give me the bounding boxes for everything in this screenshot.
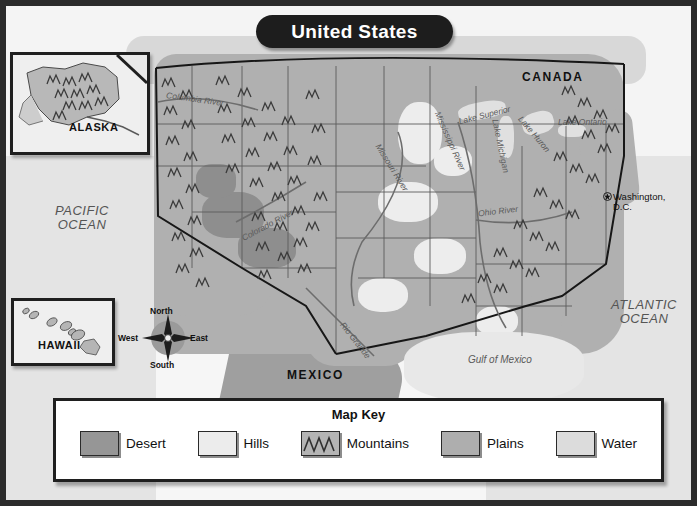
alaska-inset[interactable]: ALASKA [10, 52, 150, 155]
hawaii-shape [14, 301, 112, 363]
country-label-canada: CANADA [522, 70, 584, 84]
compass-rose: North South West East [118, 304, 218, 372]
lake-label-ontario: Lake Ontario [558, 118, 607, 127]
map-key-swatch-mountains [301, 431, 340, 456]
map-key-label-mountains: Mountains [347, 436, 409, 451]
map-key-swatch-water [556, 431, 595, 456]
map-key-item-plains[interactable]: Plains [441, 431, 524, 456]
ocean-label-pacific-line1: PACIFIC [38, 204, 126, 218]
ocean-label-atlantic-line1: ATLANTIC [598, 298, 690, 312]
map-canvas: CANADA MEXICO PACIFIC OCEAN ATLANTIC OCE… [6, 6, 691, 500]
map-key-swatch-desert [80, 431, 119, 456]
map-key-item-desert[interactable]: Desert [80, 431, 166, 456]
ocean-label-atlantic: ATLANTIC OCEAN [598, 298, 690, 326]
compass-label-north: North [150, 306, 173, 316]
map-key-swatch-hills [198, 431, 237, 456]
map-key-label-desert: Desert [126, 436, 166, 451]
map-key-title: Map Key [56, 407, 661, 422]
city-label-washington-dc: Washington, D.C. [613, 192, 665, 212]
map-key-label-water: Water [602, 436, 638, 451]
map-key-item-mountains[interactable]: Mountains [301, 431, 409, 456]
compass-label-east: East [190, 333, 208, 343]
map-title-banner: United States [256, 15, 453, 48]
ocean-label-pacific: PACIFIC OCEAN [38, 204, 126, 232]
compass-label-west: West [118, 333, 138, 343]
ocean-label-pacific-line2: OCEAN [38, 218, 126, 232]
map-key-label-hills: Hills [244, 436, 270, 451]
map-key-label-plains: Plains [487, 436, 524, 451]
hawaii-inset[interactable]: HAWAII [11, 298, 115, 366]
map-key-item-hills[interactable]: Hills [198, 431, 270, 456]
gulf-label: Gulf of Mexico [468, 354, 532, 365]
ocean-label-atlantic-line2: OCEAN [598, 312, 690, 326]
alaska-shape [13, 55, 147, 152]
map-key-items: Desert Hills Mountains Plain [56, 431, 661, 456]
alaska-inset-label: ALASKA [69, 121, 118, 133]
map-key-item-water[interactable]: Water [556, 431, 638, 456]
hawaii-inset-label: HAWAII [38, 339, 81, 351]
map-key-swatch-plains [441, 431, 480, 456]
compass-label-south: South [150, 360, 174, 370]
map-frame: CANADA MEXICO PACIFIC OCEAN ATLANTIC OCE… [0, 0, 697, 506]
map-title: United States [291, 21, 418, 43]
city-label-line2: D.C. [613, 202, 665, 212]
map-key-panel: Map Key Desert Hills Mountains [53, 398, 664, 482]
country-label-mexico: MEXICO [287, 368, 344, 382]
mountain-peaks-icon [302, 432, 339, 455]
capital-star-icon [603, 192, 612, 201]
